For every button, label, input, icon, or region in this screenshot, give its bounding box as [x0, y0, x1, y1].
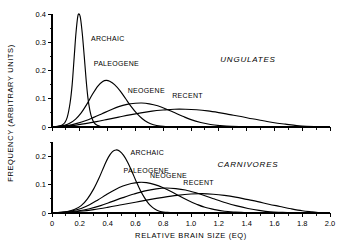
curve-label-archaic: ARCHAIC [131, 149, 165, 156]
curve-label-neogene: NEOGENE [128, 87, 165, 94]
x-tick-label: 0.6 [130, 219, 140, 228]
curve-archaic [52, 150, 174, 213]
chart-panel-carnivores: 00.10.200.20.40.60.81.01.21.41.61.82.0AR… [36, 142, 336, 228]
curve-label-recent: RECENT [172, 92, 203, 99]
curve-label-neogene: NEOGENE [150, 172, 187, 179]
y-tick-label: 0.4 [36, 10, 46, 19]
curve-paleogene [52, 182, 261, 213]
y-tick-label: 0 [42, 209, 46, 218]
chart-panel-ungulates: 00.10.20.30.4ARCHAICPALEOGENENEOGENERECE… [36, 10, 330, 132]
y-tick-label: 0.1 [36, 94, 46, 103]
chart-canvas: 00.10.20.30.4ARCHAICPALEOGENENEOGENERECE… [0, 0, 355, 250]
x-tick-label: 1.8 [297, 219, 307, 228]
curve-label-recent: RECENT [183, 179, 214, 186]
panel-title-carnivores: CARNIVORES [218, 160, 279, 169]
x-tick-label: 0.4 [102, 219, 112, 228]
x-tick-label: 1.2 [214, 219, 224, 228]
y-tick-label: 0.2 [36, 66, 46, 75]
panel-title-ungulates: UNGULATES [220, 55, 276, 64]
x-tick-label: 0 [50, 219, 54, 228]
x-tick-label: 1.0 [186, 219, 196, 228]
curve-label-archaic: ARCHAIC [91, 35, 125, 42]
x-axis-title: RELATIVE BRAIN SIZE (EQ) [135, 231, 247, 240]
y-tick-label: 0.2 [36, 152, 46, 161]
y-tick-label: 0.3 [36, 38, 46, 47]
x-tick-label: 2.0 [325, 219, 335, 228]
curve-archaic [52, 14, 110, 127]
x-tick-label: 1.6 [269, 219, 279, 228]
y-tick-label: 0 [42, 123, 46, 132]
x-tick-label: 1.4 [241, 219, 251, 228]
curve-neogene [52, 103, 258, 127]
x-tick-label: 0.2 [75, 219, 85, 228]
curve-neogene [52, 188, 295, 213]
curve-label-paleogene: PALEOGENE [94, 60, 139, 67]
y-tick-label: 0.1 [36, 180, 46, 189]
y-axis-title: FREQUENCY (ARBITRARY UNITS) [6, 44, 15, 181]
x-tick-label: 0.8 [158, 219, 168, 228]
figure-container: 00.10.20.30.4ARCHAICPALEOGENENEOGENERECE… [0, 0, 355, 250]
axis-frame [52, 14, 330, 127]
